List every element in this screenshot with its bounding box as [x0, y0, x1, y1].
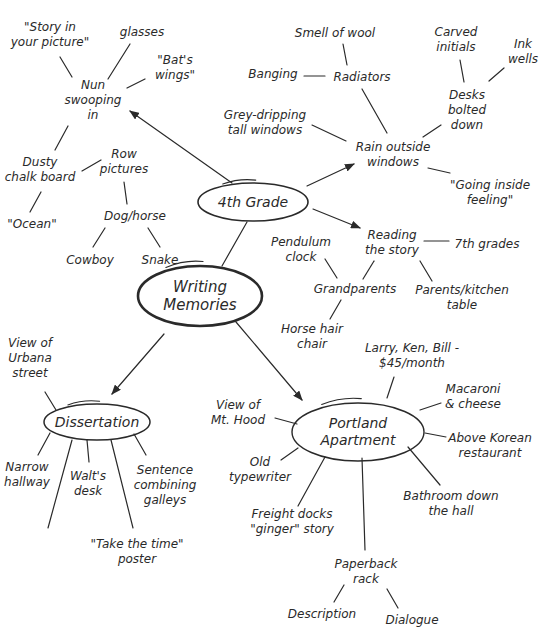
- edge-diss-to-urbana: [45, 392, 56, 410]
- node-seventh: 7th grades: [455, 237, 520, 252]
- node-horsehair: Horse hair chair: [281, 322, 343, 352]
- edge-desks-to-carved: [460, 60, 464, 82]
- node-portland: Portland Apartment: [321, 415, 396, 449]
- node-cowboy: Cowboy: [66, 253, 114, 268]
- node-grade4: 4th Grade: [218, 194, 288, 211]
- edge-nun-to-story_pic: [60, 57, 72, 77]
- edge-grandparents-to-horsehair: [330, 300, 341, 319]
- edge-rain-to-radiators: [362, 89, 387, 133]
- edge-portland-to-larry: [387, 377, 394, 398]
- node-bathroom: Bathroom down the hall: [403, 489, 498, 519]
- node-desks: Desks bolted down: [448, 88, 486, 133]
- edge-radiators-to-smell: [343, 44, 347, 65]
- node-reading: Reading the story: [365, 228, 419, 258]
- node-larry: Larry, Ken, Bill - $45/month: [365, 341, 459, 371]
- node-paperback: Paperback rack: [334, 557, 397, 587]
- edge-portland-to-freight: [298, 457, 325, 506]
- edge-dog-to-snake: [148, 228, 160, 247]
- node-typewriter: Old typewriter: [229, 455, 291, 485]
- edge-portland-to-mtHood: [275, 418, 297, 424]
- node-narrow: Narrow hallway: [4, 460, 50, 490]
- edge-grade4-to-reading: [313, 209, 360, 228]
- node-story_pic: "Story in your picture": [11, 20, 90, 50]
- edge-desks-to-ink: [489, 68, 504, 81]
- edge-reading-to-parents: [420, 261, 432, 281]
- edge-rain-to-desks: [423, 125, 441, 137]
- edge-root-to-grade4: [222, 222, 247, 266]
- node-bats: "Bat's wings": [155, 53, 195, 83]
- edge-portland-to-paperback: [362, 458, 365, 550]
- edge-diss-to-narrow: [38, 433, 50, 455]
- edge-portland-to-korean: [425, 433, 446, 437]
- node-korean: Above Korean restaurant: [448, 431, 532, 461]
- edge-diss-to-takethetime: [111, 440, 133, 528]
- edge-root-to-diss: [112, 334, 164, 394]
- node-dialogue: Dialogue: [385, 613, 438, 628]
- node-walts: Walt's desk: [70, 469, 106, 499]
- node-snake: Snake: [142, 253, 179, 268]
- edge-portland-to-macaroni: [420, 403, 441, 410]
- edge-nun-to-bats: [127, 79, 145, 88]
- node-diss: Dissertation: [55, 414, 140, 431]
- node-pendulum: Pendulum clock: [271, 235, 331, 265]
- node-carved: Carved initials: [435, 25, 478, 55]
- node-description: Description: [288, 607, 356, 622]
- edge-dog-to-cowboy: [93, 228, 105, 247]
- edge-nun-to-chalk: [55, 126, 68, 150]
- node-radiators: Radiators: [333, 70, 390, 85]
- node-sentence: Sentence combining galleys: [134, 463, 197, 508]
- node-macaroni: Macaroni & cheese: [445, 382, 501, 412]
- node-ocean: "Ocean": [7, 217, 56, 232]
- edge-chalk-to-ocean: [30, 192, 41, 212]
- edge-diss-to-line_a: [48, 440, 72, 528]
- edge-row-to-dog: [124, 182, 127, 204]
- edge-nun-to-glasses: [108, 44, 130, 79]
- node-nun: Nun swooping in: [65, 78, 122, 123]
- edge-chalk-to-row: [82, 160, 101, 171]
- node-ink: Ink wells: [508, 37, 538, 67]
- node-root: Writing Memories: [163, 278, 236, 314]
- edge-grade4-to-rain: [307, 164, 354, 186]
- node-freight: Freight docks "ginger" story: [250, 507, 334, 537]
- edge-portland-to-bathroom: [408, 447, 440, 485]
- node-smell: Smell of wool: [295, 26, 375, 41]
- edge-diss-to-walts: [87, 440, 89, 462]
- node-glasses: glasses: [120, 25, 164, 40]
- node-going: "Going inside feeling": [450, 178, 530, 208]
- node-grey: Grey-dripping tall windows: [224, 108, 306, 138]
- node-urbana: View of Urbana street: [8, 336, 52, 381]
- edge-paperback-to-dialogue: [387, 589, 398, 608]
- node-chalk: Dusty chalk board: [5, 155, 76, 185]
- edge-paperback-to-description: [334, 585, 344, 602]
- edge-diss-to-sentence: [134, 434, 146, 455]
- node-parents: Parents/kitchen table: [415, 283, 509, 313]
- edge-rain-to-going: [428, 168, 450, 173]
- node-rain: Rain outside windows: [356, 140, 431, 170]
- node-dog: Dog/horse: [104, 209, 166, 224]
- node-takethetime: "Take the time" poster: [90, 537, 183, 567]
- node-grandparents: Grandparents: [314, 282, 397, 297]
- edge-rain-to-grey: [312, 125, 346, 141]
- edge-reading-to-grandparents: [363, 261, 374, 279]
- node-mtHood: View of Mt. Hood: [211, 398, 265, 428]
- node-row: Row pictures: [100, 147, 148, 177]
- node-banging: Banging: [248, 67, 297, 82]
